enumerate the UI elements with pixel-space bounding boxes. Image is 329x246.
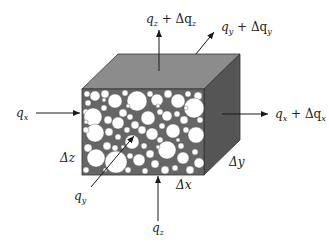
porous-control-volume-diagram: qx qx + Δqx qz + Δqz qy + Δqy qy qz Δz Δ… [0, 0, 329, 246]
label-qy-in: qy [74, 189, 87, 205]
label-delta-z: Δz [59, 151, 76, 165]
label-delta-y: Δy [228, 155, 245, 169]
arrow-qy-out [196, 32, 214, 54]
label-qx-in: qx [16, 106, 29, 122]
label-qz-out: qz + Δqz [146, 12, 197, 28]
label-qz-in: qz [152, 221, 165, 237]
label-qx-out: qx + Δqx [275, 107, 326, 123]
label-qy-out: qy + Δqy [221, 20, 272, 36]
label-delta-x: Δx [175, 178, 192, 192]
